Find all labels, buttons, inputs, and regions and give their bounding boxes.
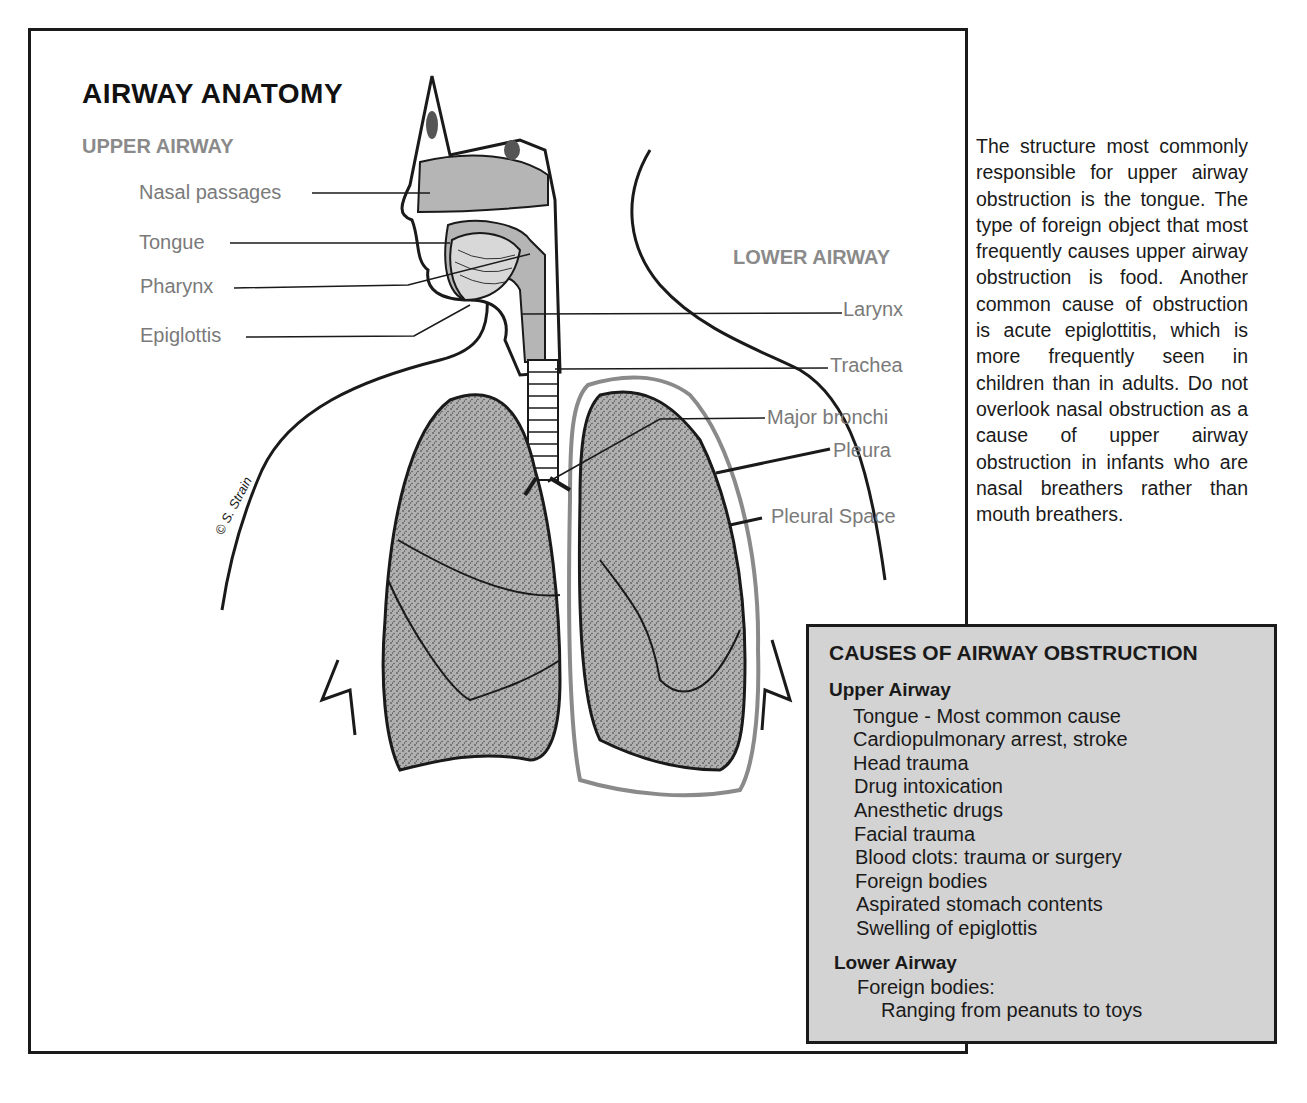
causes-box: CAUSES OF AIRWAY OBSTRUCTION Upper Airwa… — [806, 624, 1277, 1044]
label-major-bronchi: Major bronchi — [767, 406, 888, 429]
label-trachea: Trachea — [830, 354, 903, 377]
label-pleural-space: Pleural Space — [771, 505, 896, 528]
cause-item: Cardiopulmonary arrest, stroke — [853, 728, 1128, 751]
causes-title: CAUSES OF AIRWAY OBSTRUCTION — [829, 641, 1198, 665]
label-pleura: Pleura — [833, 439, 891, 462]
cause-item: Facial trauma — [854, 823, 975, 846]
label-tongue: Tongue — [139, 231, 205, 254]
cause-item: Aspirated stomach contents — [856, 893, 1103, 916]
cause-item: Head trauma — [853, 752, 969, 775]
label-larynx: Larynx — [843, 298, 903, 321]
cause-item: Drug intoxication — [854, 775, 1003, 798]
causes-upper-heading: Upper Airway — [829, 679, 951, 701]
cause-item: Tongue - Most common cause — [853, 705, 1121, 728]
upper-airway-heading: UPPER AIRWAY — [82, 135, 234, 158]
explanatory-paragraph: The structure most commonly responsible … — [976, 133, 1248, 527]
label-epiglottis: Epiglottis — [140, 324, 221, 347]
cause-item: Foreign bodies: — [857, 976, 995, 999]
label-nasal-passages: Nasal passages — [139, 181, 281, 204]
label-pharynx: Pharynx — [140, 275, 213, 298]
diagram-title: AIRWAY ANATOMY — [82, 78, 343, 110]
cause-item: Anesthetic drugs — [854, 799, 1003, 822]
left-lung — [579, 392, 745, 770]
cause-item: Swelling of epiglottis — [856, 917, 1037, 940]
causes-lower-heading: Lower Airway — [834, 952, 957, 974]
cause-item: Blood clots: trauma or surgery — [855, 846, 1122, 869]
lower-airway-heading: LOWER AIRWAY — [733, 246, 890, 269]
cause-item: Ranging from peanuts to toys — [881, 999, 1142, 1022]
cause-item: Foreign bodies — [855, 870, 987, 893]
